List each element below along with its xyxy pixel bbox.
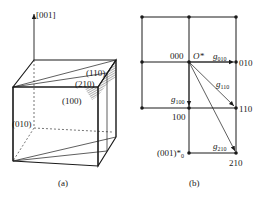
label-100: 100 <box>172 112 186 122</box>
lattice-point <box>140 60 144 64</box>
label-origin: O* <box>193 51 204 61</box>
lattice-point-200 <box>187 151 191 155</box>
caption-a: (a) <box>58 178 68 188</box>
layer-subscript: 0 <box>181 153 184 159</box>
figure: [001] (110) (210) (100) (010) (a) <box>0 0 261 198</box>
vector-g210 <box>189 62 235 151</box>
lattice-point <box>140 106 144 110</box>
lattice-point-010 <box>234 60 238 64</box>
axis-001-label: [001] <box>36 10 56 20</box>
lattice-point <box>140 15 144 19</box>
label-g100: g100 <box>171 94 185 105</box>
lattice-point-110 <box>234 106 238 110</box>
hidden-edge-back <box>34 128 112 132</box>
lattice-point-210 <box>234 151 238 155</box>
label-010: 010 <box>239 58 253 68</box>
label-000: 000 <box>170 51 184 61</box>
label-g210: g210 <box>213 141 227 152</box>
lattice-point <box>234 15 238 19</box>
lattice-point <box>187 15 191 19</box>
panel-b: 000 O* 010 100 110 210 (001)*0 g010 g100… <box>140 15 253 188</box>
lattice-point-000 <box>187 60 191 64</box>
label-plane-010: (010) <box>12 119 32 129</box>
hidden-edge-diag <box>13 128 34 161</box>
label-plane-100: (100) <box>62 96 82 106</box>
label-g110: g110 <box>216 79 229 90</box>
hatch-110 <box>107 60 116 84</box>
label-plane-210: (210) <box>75 79 95 89</box>
lattice-point-100 <box>187 106 191 110</box>
label-210: 210 <box>229 158 243 168</box>
label-layer: (001)*0 <box>157 148 184 159</box>
layer-text: (001)* <box>157 148 181 158</box>
panel-a: [001] (110) (210) (100) (010) (a) <box>12 10 116 188</box>
label-g010: g010 <box>213 51 227 62</box>
label-plane-110: (110) <box>86 68 105 78</box>
caption-b: (b) <box>189 178 200 188</box>
label-110: 110 <box>239 104 253 114</box>
